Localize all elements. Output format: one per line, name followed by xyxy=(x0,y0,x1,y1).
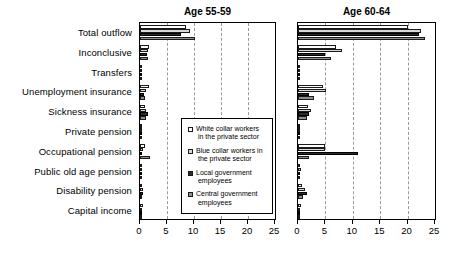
bar-p0-c9-s2 xyxy=(140,211,142,214)
x-tick-label-25: 25 xyxy=(269,225,280,236)
bar-p0-c1-s1 xyxy=(140,49,148,52)
bar-group-1 xyxy=(298,43,435,63)
x-tick-10 xyxy=(193,220,194,224)
x-tick-15 xyxy=(379,220,380,224)
legend-swatch-0 xyxy=(188,127,193,132)
bar-p1-c3-s3 xyxy=(298,96,314,99)
bar-p0-c4-s0 xyxy=(140,105,145,108)
panel-title-age-55-59: Age 55-59 xyxy=(139,6,276,17)
bar-p1-c6-s3 xyxy=(298,156,309,159)
legend-label-0: White collar workers in the private sect… xyxy=(196,125,259,142)
bar-p1-c3-s0 xyxy=(298,85,323,88)
bar-p0-c5-s2 xyxy=(140,132,142,135)
legend-label-1: Blue collar workers in the private secto… xyxy=(196,147,263,164)
category-label-2: Transfers xyxy=(91,66,132,77)
x-tick-label-0: 0 xyxy=(136,225,141,236)
bar-p0-c1-s0 xyxy=(140,45,149,48)
bar-p0-c0-s3 xyxy=(140,37,195,40)
bar-p1-c5-s0 xyxy=(298,124,300,127)
bar-p0-c3-s0 xyxy=(140,85,149,88)
bar-group-6 xyxy=(298,142,435,162)
x-tick-label-5: 5 xyxy=(163,225,168,236)
bar-p0-c2-s3 xyxy=(140,77,142,80)
legend-item-1: Blue collar workers in the private secto… xyxy=(188,147,266,164)
bar-p0-c8-s1 xyxy=(140,188,143,191)
bar-p1-c9-s0 xyxy=(298,204,301,207)
bar-p1-c5-s1 xyxy=(298,128,300,131)
bar-p1-c0-s2 xyxy=(298,33,419,36)
x-tick-label-15: 15 xyxy=(374,225,385,236)
bar-p1-c2-s3 xyxy=(298,77,300,80)
bar-p1-c2-s0 xyxy=(298,65,300,68)
bar-p0-c6-s3 xyxy=(140,156,150,159)
bar-p1-c7-s1 xyxy=(298,168,301,171)
bar-group-2 xyxy=(298,63,435,83)
bar-p0-c7-s2 xyxy=(140,172,142,175)
bar-p1-c4-s2 xyxy=(298,112,309,115)
bar-p1-c2-s1 xyxy=(298,69,300,72)
bar-p0-c5-s1 xyxy=(140,128,142,131)
bar-p0-c2-s2 xyxy=(140,73,142,76)
bar-p0-c4-s3 xyxy=(140,116,146,119)
x-tick-label-15: 15 xyxy=(215,225,226,236)
bar-p1-c4-s1 xyxy=(298,109,311,112)
bar-p0-c0-s0 xyxy=(140,25,186,28)
panel-title-age-60-64: Age 60-64 xyxy=(297,6,436,17)
category-label-1: Inconclusive xyxy=(79,46,132,57)
x-tick-0 xyxy=(297,220,298,224)
bar-p0-c8-s2 xyxy=(140,192,143,195)
plot-area-right xyxy=(297,22,436,220)
bar-p1-c1-s1 xyxy=(298,49,342,52)
bar-p0-c6-s1 xyxy=(140,148,143,151)
legend-item-3: Central government employees xyxy=(188,190,266,207)
bar-p1-c6-s0 xyxy=(298,144,325,147)
chart-legend: White collar workers in the private sect… xyxy=(181,118,273,214)
bar-p0-c0-s1 xyxy=(140,29,190,32)
bar-p1-c0-s3 xyxy=(298,37,425,40)
bar-p1-c7-s2 xyxy=(298,172,300,175)
category-label-0: Total outflow xyxy=(78,26,132,37)
category-label-5: Private pension xyxy=(65,125,132,136)
bar-p0-c1-s2 xyxy=(140,53,147,56)
chart-figure: Total outflowInconclusiveTransfersUnempl… xyxy=(0,0,459,255)
category-label-3: Unemployment insurance xyxy=(22,86,132,97)
bar-p1-c1-s3 xyxy=(298,57,331,60)
legend-swatch-3 xyxy=(188,192,193,197)
bar-p1-c5-s2 xyxy=(298,132,300,135)
bar-p0-c9-s1 xyxy=(140,208,142,211)
bar-group-0 xyxy=(140,23,275,43)
bar-group-9 xyxy=(298,201,435,221)
bar-p1-c6-s1 xyxy=(298,148,325,151)
bar-group-3 xyxy=(298,82,435,102)
bar-p1-c7-s3 xyxy=(298,176,300,179)
x-axis-left: 0510152025 xyxy=(139,220,276,242)
x-tick-5 xyxy=(166,220,167,224)
x-tick-25 xyxy=(274,220,275,224)
bar-p0-c7-s1 xyxy=(140,168,142,171)
bar-p1-c0-s0 xyxy=(298,25,408,28)
bar-p0-c7-s3 xyxy=(140,176,142,179)
x-tick-20 xyxy=(247,220,248,224)
bar-group-2 xyxy=(140,63,275,83)
legend-swatch-2 xyxy=(188,171,193,176)
category-label-7: Public old age pension xyxy=(34,165,132,176)
bar-group-5 xyxy=(298,122,435,142)
x-tick-label-0: 0 xyxy=(294,225,299,236)
bar-p0-c4-s2 xyxy=(140,112,148,115)
bar-p1-c3-s1 xyxy=(298,89,326,92)
bar-p1-c5-s3 xyxy=(298,136,300,139)
bar-p0-c5-s3 xyxy=(140,136,142,139)
x-tick-label-25: 25 xyxy=(429,225,440,236)
x-tick-15 xyxy=(220,220,221,224)
category-label-4: Sickness insurance xyxy=(48,106,132,117)
x-tick-5 xyxy=(324,220,325,224)
x-axis-right: 0510152025 xyxy=(297,220,436,242)
bar-p1-c1-s0 xyxy=(298,45,336,48)
bar-group-4 xyxy=(298,102,435,122)
bar-group-8 xyxy=(298,181,435,201)
bar-p0-c5-s0 xyxy=(140,124,142,127)
bar-p1-c4-s0 xyxy=(298,105,308,108)
bar-p0-c0-s2 xyxy=(140,33,181,36)
bar-p1-c6-s2 xyxy=(298,152,358,155)
x-tick-25 xyxy=(434,220,435,224)
